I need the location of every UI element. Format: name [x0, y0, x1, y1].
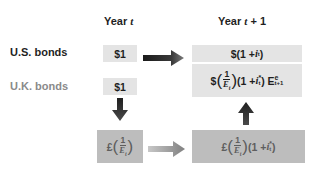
fraction-denominator: Et [223, 80, 230, 91]
header-year-t-var: t [130, 15, 133, 27]
header-year-t: Year t [104, 15, 133, 27]
uk-return-close: ) E [261, 75, 274, 87]
fraction: 1Et [234, 136, 241, 156]
uk-return-mid: (1 + [237, 75, 255, 87]
right-arrow-icon [143, 50, 185, 66]
us-return-open: (1 + [237, 48, 255, 60]
us-return-box: $(1 + it) [192, 45, 302, 62]
den-sub: t [240, 151, 242, 157]
header-year-t-prefix: Year [104, 15, 130, 27]
paren-open: ( [227, 138, 233, 155]
den-sub: t [229, 85, 231, 91]
uk-bonds-label: U.K. bonds [10, 80, 68, 92]
expected-sub: t+1 [275, 81, 284, 86]
uk-dollar-box: $1 [103, 78, 137, 95]
pounds-t1-close: ) [272, 141, 276, 153]
pounds-t1-box: £ ( 1Et ) (1 + i*t) [192, 130, 305, 163]
us-return-close: ) [260, 48, 264, 60]
down-arrow-icon [112, 98, 128, 122]
fraction-denominator: Et [234, 146, 241, 157]
pounds-t1-mid: (1 + [248, 141, 266, 153]
uk-return-dollars-box: $ ( 1Et ) (1 + i*t) Eet+1 [192, 64, 302, 97]
header-year-t1: Year t + 1 [218, 15, 266, 27]
paren-open: ( [113, 138, 119, 155]
den-sub: t [125, 151, 127, 157]
header-year-t1-prefix: Year [218, 15, 244, 27]
fraction: 1Et [223, 70, 230, 90]
fraction: 1Et [119, 136, 126, 156]
header-year-t1-suffix: + 1 [247, 15, 266, 27]
paren-close: ) [128, 138, 134, 155]
up-arrow-icon [238, 102, 254, 126]
fraction-denominator: Et [119, 146, 126, 157]
pounds-t-box: £ ( 1Et ) [97, 130, 143, 163]
us-dollar-box: $1 [103, 45, 137, 62]
us-bonds-label: U.S. bonds [10, 46, 67, 58]
right-arrow-gray-icon [148, 141, 186, 157]
paren-open: ( [216, 72, 222, 89]
